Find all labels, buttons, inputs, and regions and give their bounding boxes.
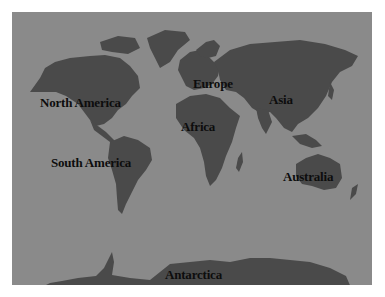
arctic-islands-shape bbox=[100, 36, 140, 54]
label-africa: Africa bbox=[181, 119, 215, 135]
label-north-america: North America bbox=[40, 95, 121, 111]
continents-layer bbox=[12, 12, 372, 285]
label-europe: Europe bbox=[193, 76, 233, 92]
label-asia: Asia bbox=[269, 92, 293, 108]
new-zealand-shape bbox=[350, 184, 358, 200]
north-america-shape bbox=[30, 55, 140, 126]
world-map: North America South America Europe Afric… bbox=[12, 12, 372, 285]
south-america-shape bbox=[108, 136, 152, 214]
madagascar-shape bbox=[236, 152, 243, 172]
label-australia: Australia bbox=[283, 169, 333, 185]
label-south-america: South America bbox=[51, 155, 131, 171]
label-antarctica: Antarctica bbox=[165, 267, 222, 283]
africa-shape bbox=[176, 94, 240, 186]
se-asia-islands-shape bbox=[292, 134, 322, 148]
scandinavia-shape bbox=[196, 40, 220, 58]
